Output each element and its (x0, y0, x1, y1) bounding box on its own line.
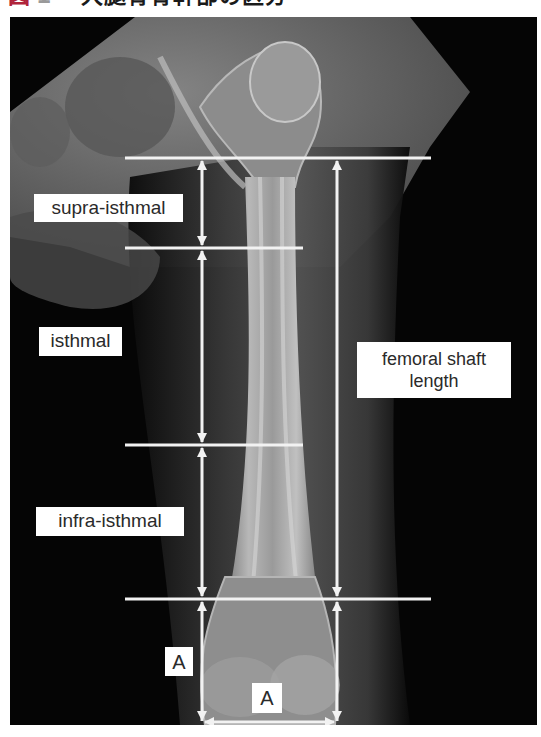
figure-number: 1 (36, 0, 51, 6)
figure-marker: 図 (8, 0, 30, 6)
label-femoral-shaft-length-line1: femoral shaft (382, 348, 486, 371)
femur-radiograph: supra-isthmal isthmal infra-isthmal femo… (10, 17, 537, 725)
label-femoral-shaft-length-line2: length (409, 370, 458, 393)
label-infra-isthmal: infra-isthmal (36, 507, 184, 536)
figure-caption: 図1大腿骨骨幹部の区分 (0, 0, 541, 6)
label-a-vertical: A (165, 647, 193, 676)
figure-title: 大腿骨骨幹部の区分 (81, 0, 288, 6)
label-supra-isthmal: supra-isthmal (34, 194, 183, 222)
label-a-horizontal: A (252, 683, 282, 713)
label-femoral-shaft-length: femoral shaft length (357, 342, 511, 398)
label-isthmal: isthmal (39, 327, 122, 356)
